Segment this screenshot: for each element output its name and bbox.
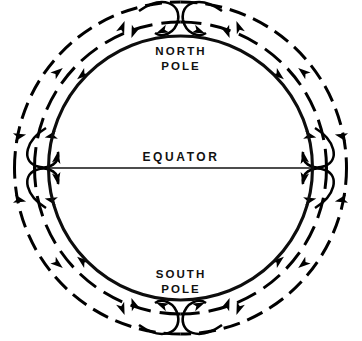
flow-arrow-outer-nw-3 (116, 19, 129, 34)
flow-arrow-outer-nw-1 (13, 130, 27, 141)
flow-arrow-outer-ne-1 (232, 19, 245, 34)
flow-arrow-outer-sw-2 (50, 257, 65, 272)
south-pole-label-line2: POLE (161, 283, 201, 295)
flow-arrow-outer-se-2 (295, 257, 310, 272)
flow-arrow-outer-se-1 (334, 194, 348, 205)
return-loop-north-right (183, 2, 222, 35)
magnetic-field-diagram: NORTH POLE EQUATOR SOUTH POLE (0, 0, 362, 341)
return-loop-north-left (139, 2, 178, 35)
flow-arrow-outer-sw-1 (116, 302, 129, 317)
flow-arrow-outer-sw-3 (13, 194, 27, 205)
field-arc-outer-sw (15, 168, 181, 334)
flow-arrow-outer-nw-2 (50, 65, 65, 80)
field-arc-outer-se (181, 168, 347, 334)
equator-label: EQUATOR (142, 150, 219, 164)
diagram-canvas: NORTH POLE EQUATOR SOUTH POLE (0, 0, 362, 341)
field-arc-inner-se (181, 168, 327, 314)
south-pole-label-line1: SOUTH (156, 268, 207, 280)
north-pole-label-line1: NORTH (155, 45, 206, 57)
flow-arrow-outer-ne-3 (334, 130, 348, 141)
north-pole-label-line2: POLE (161, 60, 201, 72)
field-arc-outer-ne (181, 2, 347, 168)
field-arc-inner-ne (181, 22, 327, 168)
field-arc-inner-sw (35, 168, 181, 314)
flow-arrow-outer-ne-2 (295, 65, 310, 80)
field-arc-inner-nw (35, 22, 181, 168)
return-loop-south-right (183, 301, 222, 334)
field-arc-outer-nw (15, 2, 181, 168)
flow-arrow-outer-se-3 (232, 302, 245, 317)
return-loop-south-left (139, 301, 178, 334)
